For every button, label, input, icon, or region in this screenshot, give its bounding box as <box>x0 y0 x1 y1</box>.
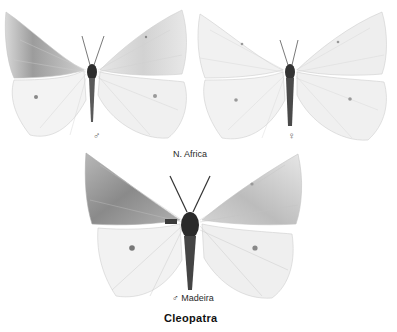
species-title: Cleopatra <box>164 313 217 324</box>
female-symbol-top-right: ♀ <box>288 131 296 141</box>
male-symbol-top-left: ♂ <box>93 131 101 141</box>
butterfly-male-bottom-madeira <box>85 153 301 298</box>
specimen-label-madeira: ♂ Madeira <box>172 294 214 303</box>
locality-label-north-africa: N. Africa <box>173 150 207 159</box>
butterfly-plate-illustration <box>0 0 397 332</box>
butterfly-female-top-right <box>198 12 387 140</box>
butterfly-male-top-left <box>5 10 186 138</box>
